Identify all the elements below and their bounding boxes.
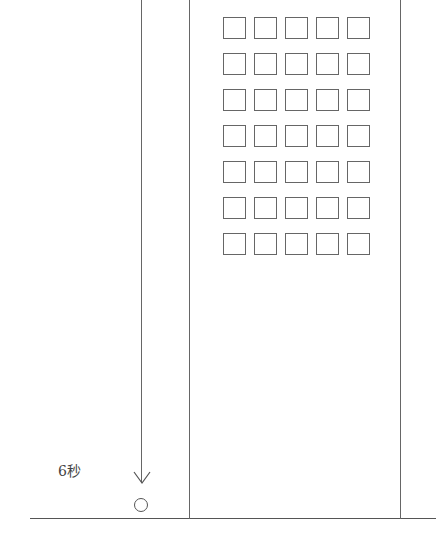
building-window [347,197,370,219]
building-window [223,53,246,75]
building-window [254,233,277,255]
building-window [254,17,277,39]
building-window [347,125,370,147]
building-left-wall [189,0,190,519]
building-window [223,17,246,39]
building-window [254,161,277,183]
building-window [316,53,339,75]
building-window [347,89,370,111]
falling-ball [134,498,148,512]
building-window [316,161,339,183]
building-window [347,233,370,255]
building-window [347,161,370,183]
building-window [316,233,339,255]
building-window [285,53,308,75]
building-window [285,197,308,219]
building-window [285,89,308,111]
building-window [223,89,246,111]
building-window [316,89,339,111]
building-window [316,17,339,39]
building-window [347,53,370,75]
building-window [316,125,339,147]
building-window [223,161,246,183]
building-window [254,197,277,219]
building-window [223,125,246,147]
fall-path-line [141,0,142,482]
arrow-down-icon [132,470,152,486]
building-right-wall [400,0,401,519]
building-window [347,17,370,39]
time-label: 6秒 [58,460,81,480]
building-window [254,89,277,111]
building-window [223,233,246,255]
building-window [285,233,308,255]
building-window [285,125,308,147]
building-window [316,197,339,219]
building-window [223,197,246,219]
building-window [254,125,277,147]
building-window [285,161,308,183]
ground-line [30,518,436,519]
building-window [285,17,308,39]
building-window [254,53,277,75]
